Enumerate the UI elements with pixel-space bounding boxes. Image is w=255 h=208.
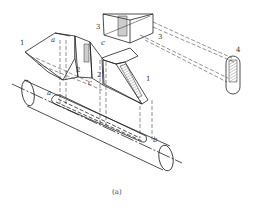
- label-c-bottom: c: [88, 80, 92, 87]
- label-a: a: [47, 90, 51, 97]
- label-1-right: 1: [146, 76, 150, 83]
- technical-drawing: 1 1 2 2 3 3 4 c c a a b (a): [0, 0, 255, 208]
- label-3-right: 3: [158, 34, 162, 41]
- label-b: b: [153, 137, 157, 144]
- label-1-left: 1: [20, 40, 24, 47]
- label-c-top: c: [101, 40, 105, 47]
- label-2-left: 2: [76, 67, 80, 74]
- label-3-left: 3: [96, 24, 100, 31]
- label-2-right: 2: [97, 72, 101, 79]
- label-4: 4: [236, 47, 240, 54]
- top-box: [103, 14, 153, 43]
- end-view-4: [226, 56, 240, 94]
- pipe: [12, 79, 182, 172]
- prism-body: [25, 33, 148, 104]
- label-a-top: a: [51, 37, 55, 44]
- figure-caption: (a): [112, 188, 122, 196]
- isometric-drawing: [0, 0, 255, 208]
